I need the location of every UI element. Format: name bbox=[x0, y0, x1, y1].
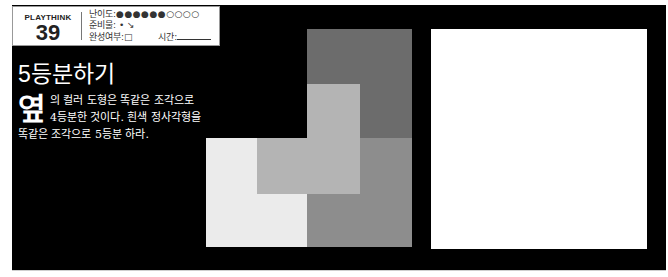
piece-dark bbox=[360, 84, 412, 138]
difficulty-dots: ●●●●●●○○○○ bbox=[116, 9, 200, 19]
header-box: PLAYTHINK 39 난이도:●●●●●●○○○○ 준비물: • ↘ 완성여… bbox=[12, 6, 220, 46]
piece-lightest bbox=[206, 138, 257, 247]
pencil-icon: • ↘ bbox=[119, 20, 135, 30]
supplies-row: 준비물: • ↘ bbox=[89, 20, 135, 31]
piece-lightest bbox=[257, 194, 307, 247]
completion-label: 완성여부: bbox=[89, 32, 124, 42]
puzzle-number: 39 bbox=[19, 21, 77, 45]
puzzle-title: 5등분하기 bbox=[18, 60, 115, 88]
puzzle-description: 옆의 컬러 도형은 똑같은 조각으로 4등분한 것이다. 흰색 정사각형을 똑같… bbox=[18, 92, 203, 143]
checkbox-icon[interactable]: □ bbox=[124, 32, 133, 42]
dropcap: 옆 bbox=[18, 94, 46, 124]
piece-light-mid bbox=[307, 84, 360, 194]
difficulty-label: 난이도: bbox=[89, 9, 116, 19]
header-divider bbox=[81, 12, 82, 40]
piece-mid bbox=[307, 194, 412, 247]
difficulty-row: 난이도:●●●●●●○○○○ bbox=[89, 9, 200, 20]
time-blank[interactable] bbox=[177, 31, 211, 40]
bottom-rule bbox=[12, 270, 666, 271]
piece-dark bbox=[307, 29, 412, 84]
white-square[interactable] bbox=[431, 29, 647, 249]
piece-mid bbox=[360, 138, 412, 194]
completion-row: 완성여부:□ 시간: bbox=[89, 31, 211, 43]
supplies-label: 준비물: bbox=[89, 20, 116, 30]
time-label: 시간: bbox=[158, 32, 177, 42]
piece-light-mid bbox=[257, 138, 307, 194]
